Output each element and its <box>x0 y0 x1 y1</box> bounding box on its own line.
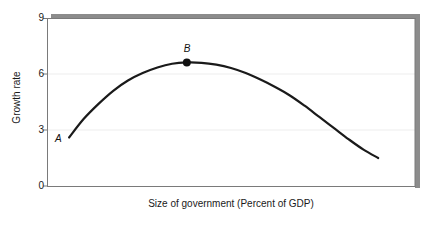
y-tick-label-0: 0 <box>26 181 44 191</box>
x-axis-title: Size of government (Percent of GDP) <box>47 198 415 209</box>
y-tick-labels: 9 6 3 0 <box>22 0 44 227</box>
point-b-marker <box>183 58 191 66</box>
y-tick-label-9: 9 <box>26 13 44 23</box>
chart-figure: 9 6 3 0 Growth rate Size of government (… <box>0 0 440 227</box>
point-b-label: B <box>184 44 191 54</box>
growth-rate-vs-government-size-chart <box>0 0 440 227</box>
plot-background <box>47 18 415 186</box>
frame-shadow-right <box>415 14 420 188</box>
y-axis-title: Growth rate <box>11 60 22 136</box>
y-tick-label-6: 6 <box>26 69 44 79</box>
point-a-label: A <box>55 134 62 144</box>
y-tick-label-3: 3 <box>26 125 44 135</box>
